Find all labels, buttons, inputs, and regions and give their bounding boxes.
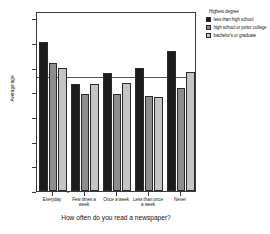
bar[interactable] — [145, 96, 154, 191]
legend-item[interactable]: bachelor's or graduate — [206, 33, 268, 38]
plot-area — [37, 13, 195, 191]
x-axis-tick-mark — [148, 192, 149, 196]
bar[interactable] — [167, 51, 176, 191]
x-axis-tick-mark — [116, 192, 117, 196]
chart-container: Average age 010203040506070 EverydayFew … — [0, 0, 270, 234]
bar-group — [167, 13, 195, 191]
x-axis-tick-mark — [180, 192, 181, 196]
y-axis-tick-mark — [32, 192, 36, 193]
x-axis-tick-mark — [84, 192, 85, 196]
bar-group — [71, 13, 99, 191]
legend-item-label: less than high school — [214, 17, 254, 22]
legend-item-label: bachelor's or graduate — [214, 33, 256, 38]
legend-swatch-icon — [206, 17, 211, 22]
legend-swatch-icon — [206, 33, 211, 38]
bar[interactable] — [135, 68, 144, 191]
bar-group — [135, 13, 163, 191]
bar[interactable] — [39, 42, 48, 191]
bar[interactable] — [58, 68, 67, 191]
legend-item[interactable]: high school or junior college — [206, 25, 268, 30]
bar-group — [103, 13, 131, 191]
y-axis-title: Average age — [10, 59, 15, 119]
bar[interactable] — [177, 88, 186, 191]
bar[interactable] — [49, 63, 58, 191]
x-axis-tick-mark — [52, 192, 53, 196]
bar[interactable] — [71, 84, 80, 191]
bar[interactable] — [90, 84, 99, 191]
bar[interactable] — [154, 97, 163, 191]
x-axis-title: How often do you read a newspaper? — [36, 214, 196, 221]
bar[interactable] — [122, 83, 131, 191]
legend-item[interactable]: less than high school — [206, 17, 268, 22]
bar[interactable] — [113, 94, 122, 191]
legend: Highest degree less than high schoolhigh… — [206, 9, 268, 40]
plot-frame — [36, 12, 196, 192]
bar[interactable] — [186, 72, 195, 191]
bar-group — [39, 13, 67, 191]
legend-items: less than high schoolhigh school or juni… — [206, 17, 268, 38]
x-axis-tick-label: Never — [156, 197, 204, 202]
legend-title: Highest degree — [209, 9, 268, 14]
legend-item-label: high school or junior college — [214, 25, 267, 30]
bar[interactable] — [81, 94, 90, 191]
bar[interactable] — [103, 73, 112, 191]
legend-swatch-icon — [206, 25, 211, 30]
